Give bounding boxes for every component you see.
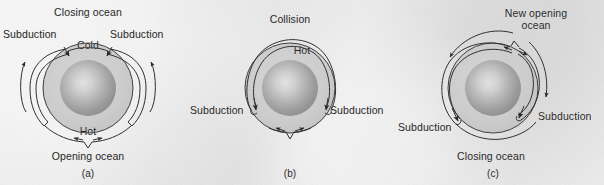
figure-canvas: Closing ocean Subduction Subduction Cold… [0,0,604,185]
panel-c-label-bottom: Closing ocean [457,150,525,162]
panel-b-caption: (b) [284,168,297,180]
panel-b-label-hot: Hot [294,44,311,56]
panel-c-label-top-line2: ocean [521,19,550,31]
panel-b-graphic [245,40,336,139]
panel-a-label-cold: Cold [77,39,99,51]
panel-c-label-right-subduction: Subduction [538,110,592,122]
panel-b-label-left-subduction: Subduction [190,104,244,116]
panel-a-label-right-subduction: Subduction [110,28,164,40]
panel-c-caption: (c) [487,168,499,180]
panel-a-label-bottom: Opening ocean [52,150,125,162]
panel-b-label-right-subduction: Subduction [330,104,384,116]
panel-c-label-left-subduction: Subduction [398,121,452,133]
panel-a-label-hot: Hot [80,125,97,137]
panel-c-label-top-line1: New opening [505,7,567,19]
panel-b-label-collision: Collision [270,13,311,25]
panel-a-label-left-subduction: Subduction [3,28,57,40]
panel-c-graphic [442,31,547,139]
panel-a-label-top: Closing ocean [54,6,122,18]
panel-a-caption: (a) [82,168,95,180]
